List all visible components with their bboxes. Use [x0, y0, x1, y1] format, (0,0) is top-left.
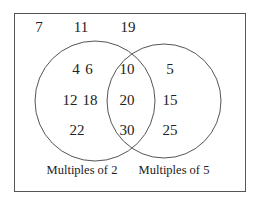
set-b-number: 25: [163, 122, 178, 138]
set-a-number: 6: [85, 61, 93, 77]
set-a-number: 12: [63, 92, 78, 108]
venn-diagram: 7 11 19 4 6 12 18 22 10 20 30 5 15 25 Mu…: [0, 0, 257, 199]
set-b-label: Multiples of 5: [139, 163, 210, 177]
set-b-number: 15: [163, 92, 178, 108]
outside-number: 11: [74, 19, 88, 35]
set-a-number: 18: [83, 92, 98, 108]
intersection-number: 30: [120, 122, 135, 138]
set-a-number: 4: [72, 61, 80, 77]
outside-number: 19: [121, 19, 136, 35]
intersection-number: 20: [120, 92, 135, 108]
set-b-number: 5: [166, 61, 174, 77]
intersection-number: 10: [120, 61, 135, 77]
set-a-number: 22: [70, 122, 85, 138]
outside-number: 7: [35, 19, 43, 35]
set-a-label: Multiples of 2: [47, 163, 118, 177]
